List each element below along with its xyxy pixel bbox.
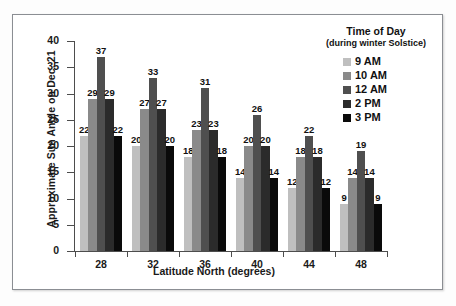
bar-group: 2027332720 <box>132 41 174 251</box>
x-axis-tick-label: 32 <box>127 258 179 270</box>
bar-value-label: 23 <box>200 118 226 129</box>
y-axis-tick <box>67 225 74 226</box>
bar[interactable] <box>244 146 252 251</box>
bar[interactable] <box>270 178 278 252</box>
legend-item-label: 3 PM <box>355 112 381 123</box>
bar-value-label: 29 <box>96 87 122 98</box>
bar-value-label: 18 <box>304 145 330 156</box>
legend-swatch-icon <box>343 58 351 66</box>
y-axis-tick-label: 0 <box>13 244 59 256</box>
legend-swatch-icon <box>343 86 351 94</box>
y-axis-tick <box>67 120 74 121</box>
y-axis-tick <box>67 94 74 95</box>
y-axis-tick <box>67 146 74 147</box>
bar-value-label: 31 <box>192 76 218 87</box>
bar[interactable] <box>374 204 382 251</box>
bar-value-label: 14 <box>261 166 287 177</box>
bar-group: 1823312318 <box>184 41 226 251</box>
bar-value-label: 33 <box>140 66 166 77</box>
bar[interactable] <box>340 204 348 251</box>
x-axis-tick <box>179 252 180 257</box>
bar[interactable] <box>166 146 174 251</box>
bar[interactable] <box>236 178 244 252</box>
bar[interactable] <box>88 99 96 251</box>
legend-item-label: 12 AM <box>355 84 387 95</box>
bar-value-label: 27 <box>148 97 174 108</box>
legend-swatch-icon <box>343 114 351 122</box>
y-axis-tick-label: 10 <box>13 192 59 204</box>
bar-value-label: 18 <box>209 145 235 156</box>
bar[interactable] <box>348 178 356 252</box>
bar-value-label: 22 <box>105 124 131 135</box>
bar-group: 2229372922 <box>80 41 122 251</box>
y-axis-tick <box>67 172 74 173</box>
x-axis-tick-label: 36 <box>179 258 231 270</box>
y-axis-tick-label: 5 <box>13 218 59 230</box>
bar[interactable] <box>218 157 226 252</box>
legend-swatch-icon <box>343 100 351 108</box>
bar[interactable] <box>80 136 88 252</box>
y-axis-tick-label: 30 <box>13 87 59 99</box>
x-axis-tick-label: 48 <box>335 258 387 270</box>
y-axis-tick-label: 20 <box>13 139 59 151</box>
y-axis-tick-label: 25 <box>13 113 59 125</box>
bar-value-label: 20 <box>157 134 183 145</box>
bar-value-label: 22 <box>296 124 322 135</box>
legend-subtitle: (during winter Solstice) <box>313 38 439 48</box>
bar-value-label: 37 <box>88 45 114 56</box>
x-axis-tick-label: 44 <box>283 258 335 270</box>
bar[interactable] <box>261 146 269 251</box>
x-axis-tick <box>75 252 76 257</box>
x-axis-tick <box>283 252 284 257</box>
bar-value-label: 26 <box>244 103 270 114</box>
y-axis-tick-label: 15 <box>13 165 59 177</box>
chart-legend: Time of Day (during winter Solstice) 9 A… <box>313 25 439 125</box>
bar[interactable] <box>192 130 200 251</box>
y-axis-tick <box>67 41 74 42</box>
bar[interactable] <box>105 99 113 251</box>
x-axis-tick <box>127 252 128 257</box>
bar[interactable] <box>157 109 165 251</box>
x-axis-tick <box>335 252 336 257</box>
bar[interactable] <box>140 109 148 251</box>
legend-item-label: 2 PM <box>355 98 381 109</box>
legend-item-label: 10 AM <box>355 70 387 81</box>
y-axis-tick <box>67 251 74 252</box>
legend-swatch-icon <box>343 72 351 80</box>
bar[interactable] <box>288 188 296 251</box>
x-axis-tick <box>231 252 232 257</box>
bar-value-label: 12 <box>313 176 339 187</box>
x-axis-tick-label: 28 <box>75 258 127 270</box>
bar[interactable] <box>296 157 304 252</box>
bar[interactable] <box>201 88 209 251</box>
legend-item[interactable]: 9 AM <box>343 55 439 68</box>
page-background: Approximate Sun Angle on Dec. 21 Latitud… <box>0 0 456 306</box>
bar-value-label: 20 <box>252 134 278 145</box>
y-axis-tick-label: 40 <box>13 34 59 46</box>
x-axis-tick-label: 40 <box>231 258 283 270</box>
bar-value-label: 19 <box>348 139 374 150</box>
bar[interactable] <box>313 157 321 252</box>
legend-item-label: 9 AM <box>355 56 381 67</box>
legend-item[interactable]: 10 AM <box>343 69 439 82</box>
y-axis-tick <box>67 199 74 200</box>
bar[interactable] <box>132 146 140 251</box>
bar-value-label: 14 <box>356 166 382 177</box>
bar-group: 1420262014 <box>236 41 278 251</box>
legend-items: 9 AM10 AM12 AM2 PM3 PM <box>313 55 439 124</box>
bar-value-label: 9 <box>365 192 391 203</box>
bar[interactable] <box>114 136 122 252</box>
legend-item[interactable]: 2 PM <box>343 97 439 110</box>
x-axis-tick <box>387 252 388 257</box>
bar[interactable] <box>365 178 373 252</box>
chart-frame: Approximate Sun Angle on Dec. 21 Latitud… <box>12 14 443 290</box>
bar[interactable] <box>184 157 192 252</box>
legend-item[interactable]: 3 PM <box>343 111 439 124</box>
legend-title: Time of Day <box>313 25 439 37</box>
y-axis-tick-label: 35 <box>13 60 59 72</box>
y-axis-tick <box>67 67 74 68</box>
legend-item[interactable]: 12 AM <box>343 83 439 96</box>
bar[interactable] <box>322 188 330 251</box>
